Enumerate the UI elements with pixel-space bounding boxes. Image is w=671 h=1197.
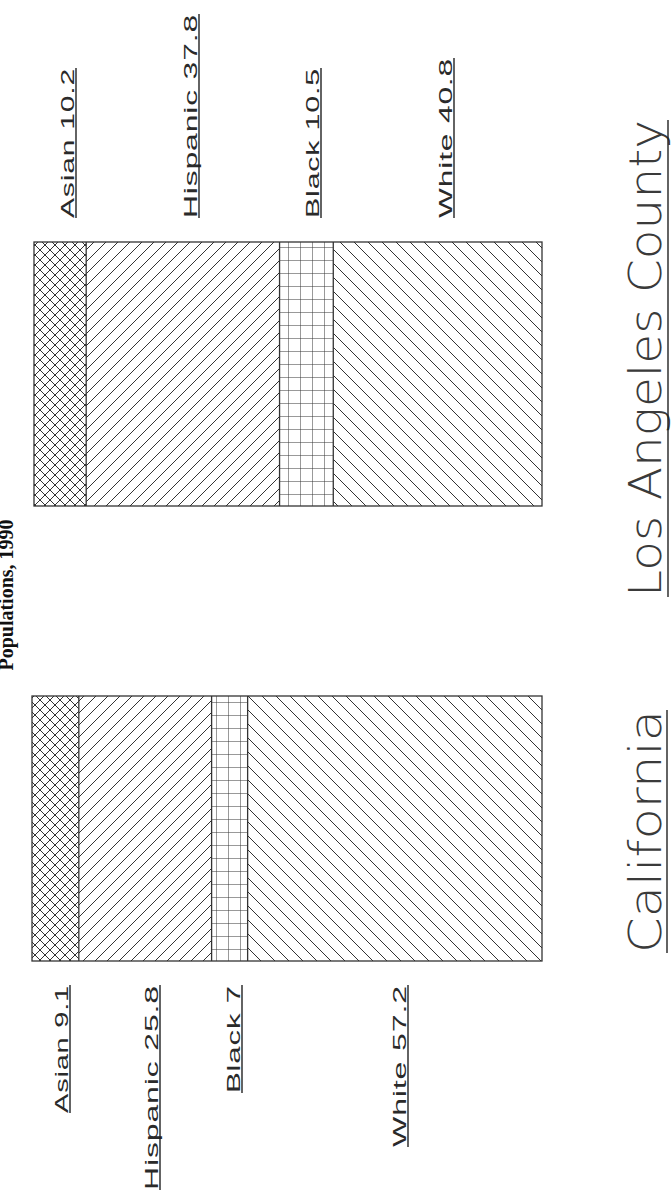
ca-label-black: Black 7 xyxy=(223,985,244,1093)
svg-text:Black 7: Black 7 xyxy=(223,985,244,1093)
la-label-black: Black 10.5 xyxy=(302,68,323,218)
svg-text:White 57.2: White 57.2 xyxy=(389,985,410,1147)
svg-text:Asian 10.2: Asian 10.2 xyxy=(57,68,78,218)
ca-label-hispanic: Hispanic 25.8 xyxy=(141,985,162,1190)
ca-segment-labels: Asian 9.1 Hispanic 25.8 Black 7 White 57… xyxy=(51,985,410,1190)
category-label-california: California xyxy=(620,710,671,953)
svg-text:Black 10.5: Black 10.5 xyxy=(302,68,323,218)
ca-label-white: White 57.2 xyxy=(389,985,410,1147)
la-label-asian: Asian 10.2 xyxy=(57,68,78,218)
la-segment-labels: Asian 10.2 Hispanic 37.8 Black 10.5 Whit… xyxy=(57,14,456,218)
la-label-hispanic: Hispanic 37.8 xyxy=(180,14,201,218)
svg-text:California: California xyxy=(620,710,671,953)
bar-segment-asian xyxy=(34,242,86,506)
bar-segment-asian xyxy=(32,696,79,961)
svg-text:Hispanic 37.8: Hispanic 37.8 xyxy=(180,14,201,218)
bar-segment-hispanic xyxy=(86,242,279,506)
bar-los-angeles-county xyxy=(34,242,542,506)
ca-label-asian: Asian 9.1 xyxy=(51,985,72,1113)
svg-text:Asian 9.1: Asian 9.1 xyxy=(51,985,72,1113)
bar-segment-white xyxy=(333,242,542,506)
la-label-white: White 40.8 xyxy=(435,58,456,218)
bar-segment-hispanic xyxy=(79,696,212,961)
bar-segment-white xyxy=(248,696,542,961)
category-label-los-angeles-county: Los Angeles County xyxy=(620,120,671,597)
population-chart: Populations, 1990 Asian 10.2 Hispanic 37… xyxy=(0,0,671,1197)
bar-segment-black xyxy=(280,242,334,506)
bar-segment-black xyxy=(212,696,248,961)
chart-title: Populations, 1990 xyxy=(0,519,18,670)
svg-text:White 40.8: White 40.8 xyxy=(435,58,456,218)
svg-text:Los Angeles County: Los Angeles County xyxy=(620,120,671,597)
bar-california xyxy=(32,696,542,961)
svg-text:Hispanic 25.8: Hispanic 25.8 xyxy=(141,985,162,1190)
